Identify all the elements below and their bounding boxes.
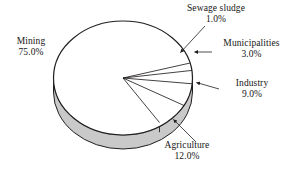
slice-label-municipalities-value: 3.0%: [214, 49, 289, 60]
slice-label-mining: Mining 75.0%: [5, 36, 57, 58]
slice-label-agriculture-name: Agriculture: [148, 140, 226, 151]
leader-industry: [197, 83, 220, 90]
pie-chart-figure: Sewage sludge 1.0% Municipalities 3.0% I…: [0, 0, 289, 177]
slice-label-industry-name: Industry: [222, 78, 282, 89]
slice-label-agriculture: Agriculture 12.0%: [148, 140, 226, 162]
leader-agriculture: [174, 120, 197, 143]
slice-label-municipalities-name: Municipalities: [214, 38, 289, 49]
leader-sewage-sludge: [181, 26, 206, 53]
slice-label-sewage-sludge: Sewage sludge 1.0%: [170, 3, 262, 25]
slice-label-sewage-sludge-value: 1.0%: [170, 14, 262, 25]
slice-label-industry: Industry 9.0%: [222, 78, 282, 100]
slice-label-agriculture-value: 12.0%: [148, 151, 226, 162]
slice-label-mining-value: 75.0%: [5, 47, 57, 58]
slice-label-industry-value: 9.0%: [222, 89, 282, 100]
slice-label-mining-name: Mining: [5, 36, 57, 47]
slice-label-municipalities: Municipalities 3.0%: [214, 38, 289, 60]
pie-3d-body: [54, 21, 193, 149]
slice-label-sewage-sludge-name: Sewage sludge: [170, 3, 262, 14]
